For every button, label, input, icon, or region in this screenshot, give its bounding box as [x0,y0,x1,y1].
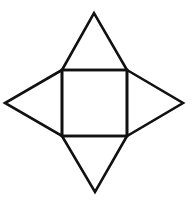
pyramid-net-diagram [0,0,195,204]
base-square-face [62,70,127,136]
left-triangle-face [5,70,62,136]
bottom-triangle-face [62,136,127,192]
right-triangle-face [127,70,183,136]
top-triangle-face [62,13,127,70]
